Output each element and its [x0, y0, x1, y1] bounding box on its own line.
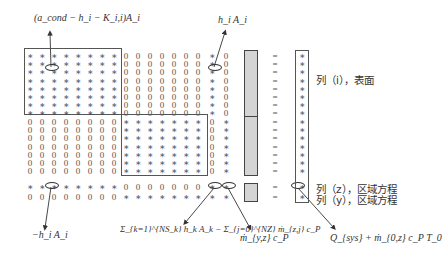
- surface-row-label: 列（i），表面: [316, 72, 374, 87]
- equals-sign: =: [270, 193, 280, 201]
- matrix-cell: ∗: [109, 183, 119, 191]
- rhs-cell: ∗: [297, 193, 307, 201]
- matrix-cell: 0: [25, 193, 35, 201]
- matrix-cell: 0: [145, 183, 155, 191]
- matrix-cell: 0: [121, 183, 131, 191]
- matrix-cell: ∗: [121, 167, 131, 175]
- matrix-cell: 0: [169, 183, 179, 191]
- rhs-cell: ∗: [297, 183, 307, 191]
- equals-sign: =: [270, 183, 280, 191]
- matrix-cell: ∗: [145, 193, 155, 201]
- matrix-cell: 0: [73, 167, 83, 175]
- diag-term-label: (a_cond − h_i − K_i,i)A_i: [34, 12, 140, 23]
- neg-highlight: [45, 182, 59, 189]
- matrix-cell: 0: [37, 193, 47, 201]
- offdiag-highlight: [208, 64, 222, 71]
- matrix-cell: ∗: [145, 167, 155, 175]
- matrix-cell: 0: [97, 167, 107, 175]
- matrix-cell: 0: [109, 167, 119, 175]
- matrix-cell: 0: [97, 193, 107, 201]
- unknown-vector-top: [244, 50, 258, 118]
- flow-term-label: ṁ_{y,z} c_P: [240, 232, 289, 243]
- matrix-cell: 0: [85, 167, 95, 175]
- matrix-cell: ∗: [133, 193, 143, 201]
- matrix-cell: ∗: [25, 183, 35, 191]
- sum-term-label: Σ_{k=1}^{NS_k} h_k A_k − Σ_{j=0}^{NZ} ṁ_…: [120, 224, 321, 234]
- matrix-cell: 0: [207, 167, 217, 175]
- matrix-cell: ∗: [169, 193, 179, 201]
- equals-sign: =: [270, 167, 280, 175]
- matrix-cell: ∗: [97, 183, 107, 191]
- matrix-cell: 0: [181, 183, 191, 191]
- matrix-cell: 0: [49, 167, 59, 175]
- matrix-cell: ∗: [221, 167, 231, 175]
- matrix-cell: ∗: [181, 193, 191, 201]
- matrix-cell: 0: [61, 193, 71, 201]
- matrix-cell: ∗: [193, 193, 203, 201]
- matrix-cell: ∗: [73, 183, 83, 191]
- matrix-cell: 0: [49, 193, 59, 201]
- matrix-cell: 0: [73, 193, 83, 201]
- offdiag-term-label: h_i A_i: [218, 14, 247, 25]
- rhs-term-label: Q_{sys} + ṁ_{0,z} c_P T_0: [330, 232, 442, 243]
- matrix-cell: ∗: [221, 193, 231, 201]
- sum-highlight: [208, 182, 222, 189]
- matrix-cell: 0: [157, 183, 167, 191]
- matrix-cell: 0: [25, 167, 35, 175]
- rhs-cell: ∗: [297, 167, 307, 175]
- matrix-cell: ∗: [181, 167, 191, 175]
- matrix-cell: ∗: [157, 193, 167, 201]
- matrix-cell: 0: [85, 193, 95, 201]
- unknown-vector-zone: [244, 183, 258, 202]
- matrix-cell: ∗: [61, 183, 71, 191]
- matrix-cell: ∗: [193, 167, 203, 175]
- flow-highlight: [222, 182, 236, 189]
- matrix-cell: 0: [37, 167, 47, 175]
- matrix-cell: 0: [61, 167, 71, 175]
- matrix-cell: ∗: [157, 167, 167, 175]
- unknown-vector-mid: [244, 116, 258, 176]
- matrix-cell: ∗: [133, 167, 143, 175]
- matrix-cell: 0: [109, 193, 119, 201]
- matrix-cell: ∗: [169, 167, 179, 175]
- matrix-cell: 0: [193, 183, 203, 191]
- diag-highlight: [45, 64, 59, 71]
- matrix-cell: ∗: [85, 183, 95, 191]
- matrix-cell: ∗: [207, 193, 217, 201]
- matrix-cell: 0: [133, 183, 143, 191]
- zone-y-row-label: 列（y），区域方程: [316, 192, 397, 207]
- matrix-cell: ∗: [121, 193, 131, 201]
- neg-term-label: −h_i A_i: [32, 229, 68, 240]
